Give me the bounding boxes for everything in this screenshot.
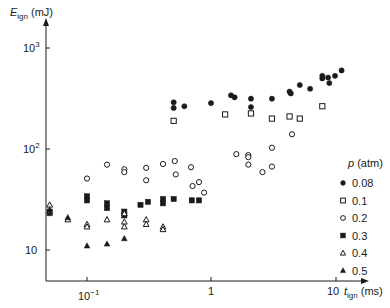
data-point [122,170,127,175]
data-point [138,202,143,207]
data-point [171,105,176,110]
data-point [172,158,177,163]
data-point [248,96,253,101]
series-p-0.1 [171,104,325,124]
y-axis-title: Eign(mJ) [10,6,53,21]
y-tick-label-100: 102 [23,141,40,155]
data-point [196,198,201,203]
legend-label-0.1: 0.1 [352,195,367,207]
data-point [104,217,110,222]
data-point [160,201,165,206]
data-point [208,100,213,105]
data-point [223,112,228,117]
data-point [104,241,110,246]
data-point [104,201,109,206]
data-point [269,145,274,150]
data-point [190,183,195,188]
y-tick-label-1000: 103 [23,40,40,54]
data-point [104,162,109,167]
data-point [269,116,274,121]
data-point [269,96,274,101]
data-point [144,165,149,170]
legend-marker-0.2 [341,216,346,221]
data-point [104,205,109,210]
data-point [202,190,207,195]
data-point [339,68,344,73]
data-point [144,178,149,183]
data-point [189,198,194,203]
series-p-0.2 [84,132,294,196]
legend-marker-0.1 [341,198,346,203]
data-point [246,162,251,167]
legend-marker-0.4 [340,250,345,255]
data-point [84,176,89,181]
data-point [289,132,294,137]
data-point [84,198,89,203]
x-axis-title: tign(ms) [344,285,383,300]
data-points [47,68,344,248]
legend-marker-0.08 [341,181,346,186]
data-point [160,161,165,166]
legend-marker-0.5 [340,268,345,273]
scatter-chart: 103 102 10 10−1 1 10 Eign(mJ) tign(ms) p… [0,0,390,308]
data-point [332,73,337,78]
data-point [171,118,176,123]
data-point [232,95,237,100]
series-p-0.08 [171,68,344,111]
legend-label-0.2: 0.2 [352,212,367,224]
data-point [320,104,325,109]
data-point [47,202,53,207]
data-point [297,116,302,121]
data-point [196,180,201,185]
data-point [269,164,274,169]
legend: p(atm) 0.080.10.20.30.40.5 [340,157,382,277]
data-point [145,199,150,204]
y-tick-label-10: 10 [25,244,37,256]
x-tick-label-1: 1 [208,285,214,297]
data-point [234,152,239,157]
data-point [287,114,292,119]
data-point [246,155,251,160]
data-point [84,243,90,248]
data-point [260,170,265,175]
data-point [171,100,176,105]
data-point [248,104,253,109]
data-point [65,214,71,219]
data-point [288,91,293,96]
legend-label-0.08: 0.08 [352,177,373,189]
legend-label-0.4: 0.4 [352,247,367,259]
data-point [182,104,187,109]
data-point [121,236,127,241]
data-point [188,165,193,170]
data-point [248,111,253,116]
data-point [297,82,302,87]
data-point [171,196,176,201]
data-point [320,76,325,81]
x-tick-label-10: 10 [327,285,339,297]
data-point [173,172,178,177]
data-point [308,86,313,91]
legend-marker-0.3 [341,233,346,238]
legend-label-0.3: 0.3 [352,230,367,242]
x-tick-label-0.1: 10−1 [78,288,100,302]
legend-label-0.5: 0.5 [352,265,367,277]
data-point [326,75,331,80]
legend-title: p(atm) [347,157,383,169]
data-point [327,80,332,85]
